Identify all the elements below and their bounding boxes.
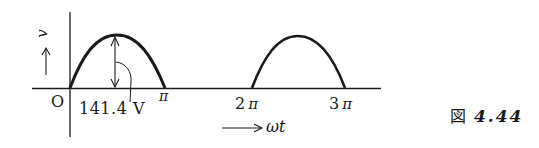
x-direction-arrow-icon — [222, 124, 262, 132]
tick-label-pi: π — [159, 89, 168, 103]
half-wave-arch-2 — [252, 36, 345, 88]
tick-coefficient: 3 — [329, 94, 339, 113]
caption-number: 4.44 — [474, 106, 523, 126]
tick-coefficient: 2 — [235, 94, 245, 113]
x-axis-label: ωt — [266, 119, 285, 135]
caption-prefix: 図 — [450, 107, 466, 126]
tick-symbol: π — [342, 95, 352, 113]
peak-value-label: 141.4 V — [79, 101, 145, 117]
y-direction-arrow-icon — [42, 48, 50, 75]
annotation-leader-line — [116, 62, 131, 102]
figure-4-44: v O 141.4 V π 2π 3π ωt 図4.44 — [0, 0, 539, 148]
y-axis-label: v — [35, 29, 50, 37]
tick-symbol: π — [248, 95, 258, 113]
tick-label-2pi: 2π — [235, 96, 258, 112]
origin-label: O — [51, 94, 64, 110]
tick-label-3pi: 3π — [329, 96, 352, 112]
figure-caption: 図4.44 — [450, 108, 523, 125]
